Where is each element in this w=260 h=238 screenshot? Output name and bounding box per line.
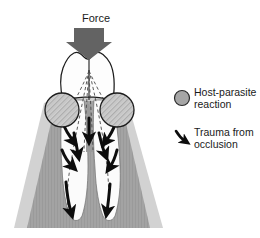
periodontal-trauma-diagram: Force Host-parasite reaction Trauma from… (0, 0, 260, 238)
gray-circle-icon (175, 91, 190, 106)
host-parasite-circle-right (100, 93, 134, 127)
legend-trauma-line2: occlusion (194, 138, 238, 150)
legend-host-parasite-line2: reaction (194, 98, 232, 110)
legend-trauma-line1: Trauma from (194, 126, 254, 138)
force-label: Force (82, 12, 110, 24)
host-parasite-circle-left (45, 93, 79, 127)
figure-container: Force Host-parasite reaction Trauma from… (0, 0, 260, 238)
legend-host-parasite-line1: Host-parasite (194, 86, 257, 98)
